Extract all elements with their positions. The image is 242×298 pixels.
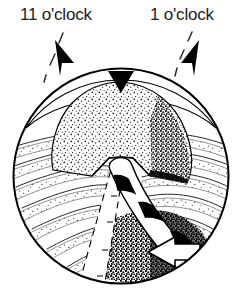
leader-arrow-1-oclock xyxy=(175,32,199,76)
clock-position-11-label: 11 o'clock xyxy=(20,6,92,23)
leader-arrow-11-oclock xyxy=(44,33,74,82)
scope-field-contents xyxy=(0,60,242,298)
illustration-canvas xyxy=(0,0,242,298)
figure-root: 11 o'clock 1 o'clock xyxy=(0,0,242,298)
clock-position-1-label: 1 o'clock xyxy=(150,6,214,23)
